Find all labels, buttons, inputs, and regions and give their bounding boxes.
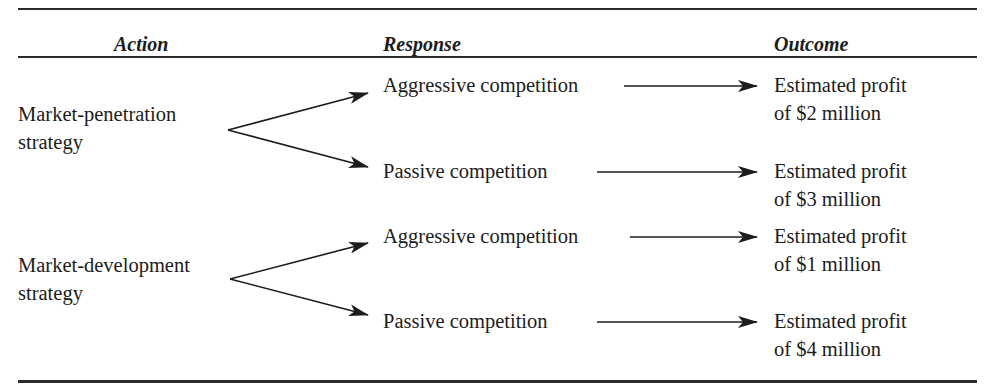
branch-arrow-icon: [230, 243, 368, 315]
arrow-layer: [0, 0, 987, 386]
outcome-arrow-icon: [597, 86, 757, 322]
branch-arrow-icon: [228, 93, 368, 167]
